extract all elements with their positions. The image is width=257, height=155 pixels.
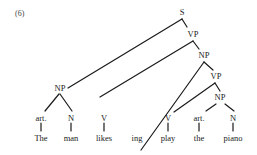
node-np-upper: NP [199, 51, 210, 60]
branch-s-np [68, 19, 182, 88]
node-vp-2: VP [211, 72, 222, 81]
node-np-inner: NP [215, 93, 226, 102]
leaf-play: play [161, 134, 176, 143]
branch-s-vp [182, 19, 187, 27]
node-n-1: N [68, 114, 74, 123]
leaf-piano: piano [224, 134, 243, 143]
branch-np-subj-art [45, 94, 59, 111]
node-n-2: N [230, 114, 236, 123]
node-s: S [180, 8, 185, 17]
node-vp-1: VP [188, 30, 199, 39]
branch-vp-v-play [174, 83, 215, 112]
leaf-ing: ing [132, 134, 143, 143]
branch-np-n [225, 104, 234, 111]
branch-vp-np [193, 41, 199, 49]
branch-vp-np-inner [215, 83, 220, 91]
branch-vp-v [100, 41, 193, 97]
node-v-1: V [101, 114, 107, 123]
syntax-tree-diagram: (6) S VP NP VP NP NP art. N V V art. N T… [0, 0, 257, 155]
leaf-man: man [64, 134, 79, 143]
node-v-2: V [165, 114, 171, 123]
leaf-the: The [34, 134, 47, 143]
leaf-likes: likes [96, 134, 112, 143]
branch-np-subj-n [60, 94, 72, 111]
branch-np-vp [204, 62, 213, 70]
node-art-1: art. [35, 114, 46, 123]
node-art-2: art. [193, 114, 204, 123]
leaf-the-2: the [194, 134, 204, 143]
branch-np-art [206, 104, 216, 111]
example-number: (6) [15, 10, 24, 18]
node-np-subject: NP [55, 84, 66, 93]
